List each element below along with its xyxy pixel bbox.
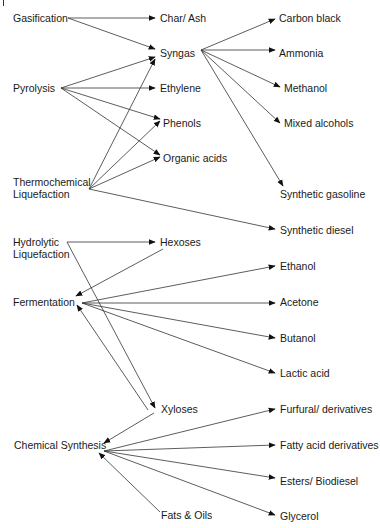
arrow-fermentation-to-butanol — [82, 303, 275, 338]
node-label: Ammonia — [279, 47, 323, 59]
node-thermochemical-liquefaction: ThermochemicalLiquefaction — [13, 176, 91, 200]
node-label: Hexoses — [160, 236, 201, 248]
node-label: Ethylene — [160, 82, 201, 94]
node-organic-acids: Organic acids — [163, 152, 227, 164]
node-label: Ethanol — [280, 260, 316, 272]
arrow-syngas-to-carbon_black — [201, 19, 275, 50]
node-fatty-acid-derivatives: Fatty acid derivatives — [280, 439, 379, 451]
node-label: Gasification — [13, 12, 68, 24]
node-label: Fermentation — [13, 296, 75, 308]
node-label: Methanol — [284, 82, 327, 94]
node-label: Char/ Ash — [160, 12, 206, 24]
arrow-gasification-to-syngas — [68, 18, 155, 49]
node-ammonia: Ammonia — [279, 47, 323, 59]
node-label: Hydrolytic — [13, 236, 70, 248]
node-label: Xyloses — [161, 403, 198, 415]
node-label: Glycerol — [280, 510, 319, 522]
node-label: Furfural/ derivatives — [280, 403, 372, 415]
node-fermentation: Fermentation — [13, 296, 75, 308]
arrow-fermentation-to-ethanol — [82, 266, 275, 303]
arrow-fats_oils-to-chemical_synthesis — [99, 453, 160, 512]
arrow-thermochemical-to-synthetic_diesel — [89, 189, 275, 229]
node-label: Pyrolysis — [13, 82, 55, 94]
node-char-ash: Char/ Ash — [160, 12, 206, 24]
node-label: Phenols — [163, 117, 201, 129]
node-xyloses: Xyloses — [161, 403, 198, 415]
node-syngas: Syngas — [160, 47, 195, 59]
node-esters-biodiesel: Esters/ Biodiesel — [280, 475, 358, 487]
node-label: Acetone — [280, 296, 319, 308]
node-ethylene: Ethylene — [160, 82, 201, 94]
node-label: Thermochemical — [13, 176, 91, 188]
node-fats-oils: Fats & Oils — [161, 509, 212, 521]
node-label: Syngas — [160, 47, 195, 59]
node-furfural-derivatives: Furfural/ derivatives — [280, 403, 372, 415]
arrow-thermochemical-to-organic_acids — [89, 157, 160, 189]
node-label: Chemical Synthesis — [14, 439, 106, 451]
arrow-thermochemical-to-syngas — [89, 59, 155, 189]
node-label: Fatty acid derivatives — [280, 439, 379, 451]
node-label: Esters/ Biodiesel — [280, 475, 358, 487]
node-carbon-black: Carbon black — [279, 12, 341, 24]
node-hydrolytic-liquefaction: HydrolyticLiquefaction — [13, 236, 70, 260]
node-label: Synthetic diesel — [280, 224, 354, 236]
node-acetone: Acetone — [280, 296, 319, 308]
arrow-chemical_synthesis-to-furfural — [104, 409, 275, 451]
arrow-pyrolysis-to-syngas — [61, 57, 155, 88]
arrow-chemical_synthesis-to-esters — [104, 451, 275, 478]
node-ethanol: Ethanol — [280, 260, 316, 272]
node-gasification: Gasification — [13, 12, 68, 24]
arrow-xyloses-to-fermentation — [77, 305, 148, 410]
node-pyrolysis: Pyrolysis — [13, 82, 55, 94]
node-phenols: Phenols — [163, 117, 201, 129]
node-label: Carbon black — [279, 12, 341, 24]
arrow-syngas-to-synthetic_gasoline — [201, 50, 283, 186]
node-label: Butanol — [280, 332, 316, 344]
node-glycerol: Glycerol — [280, 510, 319, 522]
arrow-fermentation-to-lactic_acid — [82, 303, 275, 373]
node-synthetic-diesel: Synthetic diesel — [280, 224, 354, 236]
arrow-pyrolysis-to-phenols — [61, 88, 160, 119]
node-label-line2: Liquefaction — [13, 188, 91, 200]
arrow-syngas-to-methanol — [201, 50, 280, 87]
node-label: Synthetic gasoline — [280, 188, 365, 200]
arrow-xyloses-to-chemical_synthesis — [104, 413, 154, 443]
arrow-pyrolysis-to-organic_acids — [61, 88, 160, 155]
node-label: Lactic acid — [280, 367, 330, 379]
node-label: Organic acids — [163, 152, 227, 164]
node-methanol: Methanol — [284, 82, 327, 94]
node-chemical-synthesis: Chemical Synthesis — [14, 439, 106, 451]
node-synthetic-gasoline: Synthetic gasoline — [280, 188, 365, 200]
node-lactic-acid: Lactic acid — [280, 367, 330, 379]
arrow-chemical_synthesis-to-fatty_acid — [104, 445, 275, 451]
node-label: Fats & Oils — [161, 509, 212, 521]
node-butanol: Butanol — [280, 332, 316, 344]
node-mixed-alcohols: Mixed alcohols — [284, 117, 353, 129]
node-label-line2: Liquefaction — [13, 248, 70, 260]
node-label: Mixed alcohols — [284, 117, 353, 129]
node-hexoses: Hexoses — [160, 236, 201, 248]
arrow-syngas-to-mixed_alcohols — [201, 50, 280, 123]
arrow-hexoses-to-fermentation — [76, 249, 163, 296]
